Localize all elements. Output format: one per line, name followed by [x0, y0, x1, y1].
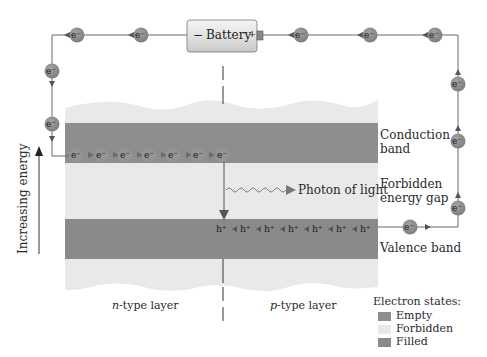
battery-positive-terminal: + — [248, 28, 256, 39]
svg-text:e⁻: e⁻ — [364, 30, 374, 40]
svg-text:e⁻: e⁻ — [120, 150, 130, 160]
svg-text:e⁻: e⁻ — [452, 79, 462, 89]
svg-text:e⁻: e⁻ — [168, 150, 178, 160]
svg-text:e⁻: e⁻ — [404, 222, 414, 232]
n-type-layer-label: n-type layer — [112, 299, 179, 313]
battery-negative-terminal: − — [193, 28, 203, 42]
p-type-layer-label: p-type layer — [270, 299, 337, 313]
forbidden-gap-label: Forbidden energy gap — [380, 177, 448, 205]
conduction-band-label-line1: Conduction — [380, 128, 450, 142]
valence-exit-electron: e⁻ — [403, 220, 432, 235]
svg-text:e⁻: e⁻ — [144, 150, 154, 160]
legend-item-empty: Empty — [396, 309, 432, 323]
svg-text:e⁻: e⁻ — [71, 150, 81, 160]
conduction-band-label-line2: band — [380, 142, 450, 156]
legend-swatch-forbidden — [378, 325, 391, 334]
svg-text:e⁻: e⁻ — [96, 150, 106, 160]
p-type-rest: -type layer — [277, 299, 336, 312]
svg-text:h⁺: h⁺ — [264, 224, 275, 234]
photon-label: Photon of light — [298, 183, 388, 197]
svg-text:e⁻: e⁻ — [71, 30, 81, 40]
battery-label: Battery — [206, 28, 251, 42]
valence-band-label: Valence band — [380, 241, 461, 255]
svg-text:e⁻: e⁻ — [46, 119, 56, 129]
svg-text:h⁺: h⁺ — [336, 224, 347, 234]
conduction-band-label: Conduction band — [380, 128, 450, 156]
svg-text:h⁺: h⁺ — [216, 224, 227, 234]
svg-text:h⁺: h⁺ — [360, 224, 371, 234]
svg-text:e⁻: e⁻ — [46, 66, 56, 76]
svg-text:e⁻: e⁻ — [193, 150, 203, 160]
svg-text:e⁻: e⁻ — [135, 30, 145, 40]
legend-item-filled: Filled — [396, 335, 428, 349]
legend-title: Electron states: — [373, 295, 461, 309]
svg-text:e⁻: e⁻ — [295, 30, 305, 40]
forbidden-gap-label-line2: energy gap — [380, 191, 448, 205]
svg-text:e⁻: e⁻ — [429, 30, 439, 40]
forbidden-gap-label-line1: Forbidden — [380, 177, 448, 191]
energy-axis-label: Increasing energy — [16, 143, 30, 254]
svg-text:h⁺: h⁺ — [288, 224, 299, 234]
svg-text:e⁻: e⁻ — [217, 150, 227, 160]
legend-item-forbidden: Forbidden — [396, 322, 453, 336]
legend-swatch-filled — [378, 338, 391, 347]
p-type-italic: p — [270, 299, 277, 312]
energy-axis-arrow — [35, 146, 43, 254]
svg-text:e⁻: e⁻ — [452, 136, 462, 146]
svg-text:h⁺: h⁺ — [240, 224, 251, 234]
svg-text:h⁺: h⁺ — [312, 224, 323, 234]
right-wire-electrons: e⁻ e⁻ e⁻ — [451, 69, 466, 216]
n-type-rest: -type layer — [119, 299, 178, 312]
svg-text:e⁻: e⁻ — [452, 203, 462, 213]
legend-swatch-empty — [378, 312, 391, 321]
